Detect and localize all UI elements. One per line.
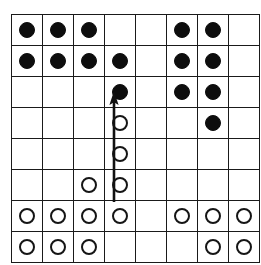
white-stone (205, 239, 221, 255)
cell-r8c7[interactable] (198, 232, 229, 263)
cell-r2c1[interactable] (12, 46, 43, 77)
cell-r1c6[interactable] (167, 15, 198, 46)
cell-r2c6[interactable] (167, 46, 198, 77)
white-stone (205, 208, 221, 224)
cell-r2c7[interactable] (198, 46, 229, 77)
cell-r2c8[interactable] (229, 46, 260, 77)
black-stone (50, 22, 66, 38)
cell-r4c3[interactable] (74, 108, 105, 139)
cell-r5c7[interactable] (198, 139, 229, 170)
table-row (12, 201, 260, 232)
cell-r5c4[interactable] (105, 139, 136, 170)
cell-r7c8[interactable] (229, 201, 260, 232)
white-stone (236, 239, 252, 255)
cell-r4c1[interactable] (12, 108, 43, 139)
black-stone (112, 84, 128, 100)
cell-r3c3[interactable] (74, 77, 105, 108)
table-row (12, 46, 260, 77)
black-stone (174, 84, 190, 100)
black-stone (19, 22, 35, 38)
cell-r5c3[interactable] (74, 139, 105, 170)
white-stone (19, 239, 35, 255)
cell-r6c1[interactable] (12, 170, 43, 201)
white-stone (81, 239, 97, 255)
cell-r7c2[interactable] (43, 201, 74, 232)
table-row (12, 170, 260, 201)
cell-r6c2[interactable] (43, 170, 74, 201)
cell-r7c5[interactable] (136, 201, 167, 232)
cell-r6c6[interactable] (167, 170, 198, 201)
cell-r8c4[interactable] (105, 232, 136, 263)
table-row (12, 139, 260, 170)
white-stone (50, 239, 66, 255)
cell-r7c3[interactable] (74, 201, 105, 232)
cell-r4c6[interactable] (167, 108, 198, 139)
cell-r2c2[interactable] (43, 46, 74, 77)
go-board (11, 14, 251, 254)
black-stone (205, 84, 221, 100)
cell-r7c7[interactable] (198, 201, 229, 232)
cell-r6c4[interactable] (105, 170, 136, 201)
cell-r1c3[interactable] (74, 15, 105, 46)
cell-r4c4[interactable] (105, 108, 136, 139)
cell-r6c8[interactable] (229, 170, 260, 201)
cell-r5c8[interactable] (229, 139, 260, 170)
cell-r3c1[interactable] (12, 77, 43, 108)
white-stone (81, 177, 97, 193)
cell-r5c1[interactable] (12, 139, 43, 170)
cell-r4c2[interactable] (43, 108, 74, 139)
cell-r8c8[interactable] (229, 232, 260, 263)
table-row (12, 108, 260, 139)
board-grid (11, 14, 260, 263)
cell-r3c6[interactable] (167, 77, 198, 108)
cell-r8c1[interactable] (12, 232, 43, 263)
cell-r6c5[interactable] (136, 170, 167, 201)
cell-r4c5[interactable] (136, 108, 167, 139)
cell-r5c2[interactable] (43, 139, 74, 170)
cell-r3c8[interactable] (229, 77, 260, 108)
cell-r7c4[interactable] (105, 201, 136, 232)
white-stone (112, 208, 128, 224)
cell-r7c1[interactable] (12, 201, 43, 232)
cell-r4c8[interactable] (229, 108, 260, 139)
white-stone (19, 208, 35, 224)
black-stone (205, 22, 221, 38)
black-stone (174, 53, 190, 69)
cell-r7c6[interactable] (167, 201, 198, 232)
cell-r1c7[interactable] (198, 15, 229, 46)
black-stone (174, 22, 190, 38)
cell-r5c5[interactable] (136, 139, 167, 170)
cell-r5c6[interactable] (167, 139, 198, 170)
cell-r8c5[interactable] (136, 232, 167, 263)
table-row (12, 232, 260, 263)
white-stone (112, 177, 128, 193)
white-stone (81, 208, 97, 224)
black-stone (81, 53, 97, 69)
cell-r6c7[interactable] (198, 170, 229, 201)
cell-r8c6[interactable] (167, 232, 198, 263)
cell-r1c5[interactable] (136, 15, 167, 46)
cell-r1c8[interactable] (229, 15, 260, 46)
cell-r2c5[interactable] (136, 46, 167, 77)
cell-r6c3[interactable] (74, 170, 105, 201)
cell-r3c4[interactable] (105, 77, 136, 108)
cell-r2c4[interactable] (105, 46, 136, 77)
cell-r3c7[interactable] (198, 77, 229, 108)
black-stone (112, 53, 128, 69)
white-stone (50, 208, 66, 224)
cell-r2c3[interactable] (74, 46, 105, 77)
black-stone (19, 53, 35, 69)
cell-r8c3[interactable] (74, 232, 105, 263)
cell-r3c2[interactable] (43, 77, 74, 108)
cell-r3c5[interactable] (136, 77, 167, 108)
table-row (12, 77, 260, 108)
black-stone (205, 115, 221, 131)
white-stone (236, 208, 252, 224)
black-stone (205, 53, 221, 69)
cell-r1c2[interactable] (43, 15, 74, 46)
cell-r1c1[interactable] (12, 15, 43, 46)
cell-r1c4[interactable] (105, 15, 136, 46)
white-stone (112, 146, 128, 162)
cell-r4c7[interactable] (198, 108, 229, 139)
cell-r8c2[interactable] (43, 232, 74, 263)
